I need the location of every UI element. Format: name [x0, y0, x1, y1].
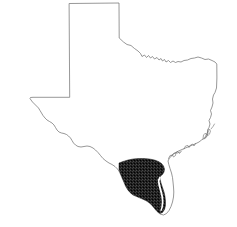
map-container — [0, 0, 237, 227]
texas-map — [0, 0, 237, 227]
